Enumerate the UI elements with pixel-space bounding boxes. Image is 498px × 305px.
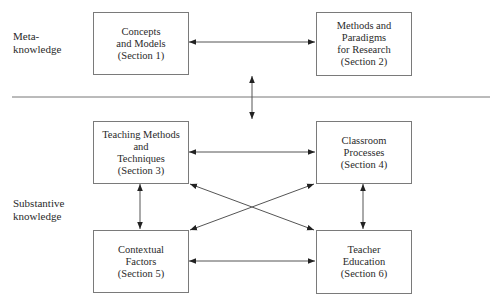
- substantive-knowledge-label: Substantive knowledge: [13, 197, 64, 223]
- box-text: Teaching Methods: [102, 129, 180, 141]
- box-contextual-factors: Contextual Factors (Section 5): [93, 230, 189, 293]
- box-classroom-processes: Classroom Processes (Section 4): [316, 121, 412, 184]
- box-text: Teacher: [347, 244, 380, 256]
- box-text: for Research: [337, 44, 390, 56]
- box-text: Processes: [344, 147, 385, 159]
- box-text: Contextual: [118, 244, 164, 256]
- box-text: (Section 5): [118, 268, 164, 280]
- box-teaching-methods: Teaching Methods and Techniques (Section…: [93, 121, 189, 184]
- box-text: and Models: [116, 38, 165, 50]
- box-concepts-models: Concepts and Models (Section 1): [93, 12, 189, 75]
- box-text: (Section 3): [118, 165, 164, 177]
- box-teacher-education: Teacher Education (Section 6): [316, 230, 412, 294]
- box-methods-paradigms: Methods and Paradigms for Research (Sect…: [316, 12, 412, 76]
- connector-layer: [0, 0, 498, 305]
- label-line: knowledge: [13, 210, 64, 223]
- box-text: (Section 1): [118, 50, 164, 62]
- box-text: Factors: [126, 256, 157, 268]
- box-text: Classroom: [342, 135, 387, 147]
- box-text: and: [133, 141, 148, 153]
- box-text: Concepts: [121, 26, 160, 38]
- box-text: (Section 6): [341, 268, 387, 280]
- box-text: (Section 2): [341, 56, 387, 68]
- meta-knowledge-label: Meta- knowledge: [13, 30, 61, 56]
- label-line: knowledge: [13, 43, 61, 56]
- box-text: Methods and: [337, 20, 392, 32]
- label-line: Meta-: [13, 30, 61, 43]
- label-line: Substantive: [13, 197, 64, 210]
- box-text: (Section 4): [341, 159, 387, 171]
- box-text: Education: [343, 256, 386, 268]
- box-text: Paradigms: [342, 32, 386, 44]
- box-text: Techniques: [117, 153, 165, 165]
